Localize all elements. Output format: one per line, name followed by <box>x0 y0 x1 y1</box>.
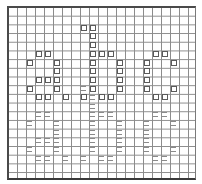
grid-cell[interactable] <box>142 58 151 67</box>
game-grid-board[interactable] <box>7 6 196 180</box>
square-marker-icon <box>153 94 159 100</box>
grid-cell[interactable] <box>88 102 97 111</box>
grid-cell[interactable] <box>43 76 52 85</box>
equals-marker-icon <box>45 138 50 143</box>
grid-cell[interactable] <box>43 50 52 59</box>
grid-cell[interactable] <box>25 119 34 128</box>
equals-marker-icon <box>54 130 59 135</box>
grid-cell[interactable] <box>79 84 88 93</box>
grid-cell[interactable] <box>34 76 43 85</box>
grid-cell[interactable] <box>169 119 178 128</box>
grid-cell[interactable] <box>88 128 97 137</box>
grid-cell[interactable] <box>142 119 151 128</box>
grid-cell[interactable] <box>43 110 52 119</box>
grid-cell[interactable] <box>142 145 151 154</box>
grid-cell[interactable] <box>25 84 34 93</box>
square-marker-icon <box>99 94 105 100</box>
grid-cell[interactable] <box>34 137 43 146</box>
grid-cell[interactable] <box>97 93 106 102</box>
grid-cell[interactable] <box>34 50 43 59</box>
grid-cell[interactable] <box>52 58 61 67</box>
grid-cell[interactable] <box>160 93 169 102</box>
grid-cell[interactable] <box>142 128 151 137</box>
equals-marker-icon <box>81 156 86 161</box>
grid-cell[interactable] <box>106 50 115 59</box>
grid-cell[interactable] <box>106 93 115 102</box>
grid-cell[interactable] <box>88 50 97 59</box>
equals-marker-icon <box>108 156 113 161</box>
grid-cell[interactable] <box>88 41 97 50</box>
grid-cell[interactable] <box>88 23 97 32</box>
grid-cell[interactable] <box>79 23 88 32</box>
grid-cell[interactable] <box>106 154 115 163</box>
grid-cell[interactable] <box>115 119 124 128</box>
grid-cell[interactable] <box>34 154 43 163</box>
grid-cell[interactable] <box>115 145 124 154</box>
grid-cell[interactable] <box>34 110 43 119</box>
square-marker-icon <box>144 68 150 74</box>
grid-cell[interactable] <box>88 93 97 102</box>
grid-cell[interactable] <box>88 137 97 146</box>
grid-cell[interactable] <box>43 93 52 102</box>
square-marker-icon <box>27 86 33 92</box>
equals-marker-icon <box>117 121 122 126</box>
grid-cell[interactable] <box>88 76 97 85</box>
grid-cell[interactable] <box>52 67 61 76</box>
square-marker-icon <box>117 86 123 92</box>
grid-cell[interactable] <box>115 128 124 137</box>
grid-cell[interactable] <box>169 145 178 154</box>
grid-cell[interactable] <box>52 119 61 128</box>
grid-cell[interactable] <box>115 137 124 146</box>
grid-cell[interactable] <box>160 110 169 119</box>
grid-cell[interactable] <box>25 145 34 154</box>
equals-marker-icon <box>117 130 122 135</box>
grid-cell[interactable] <box>97 154 106 163</box>
grid-cell[interactable] <box>142 67 151 76</box>
grid-cell[interactable] <box>97 110 106 119</box>
grid-cell[interactable] <box>169 84 178 93</box>
grid-cell[interactable] <box>25 58 34 67</box>
grid-cell[interactable] <box>43 137 52 146</box>
square-marker-icon <box>90 86 96 92</box>
grid-cell[interactable] <box>151 93 160 102</box>
grid-cell[interactable] <box>151 154 160 163</box>
grid-cell[interactable] <box>142 137 151 146</box>
grid-cell[interactable] <box>52 145 61 154</box>
equals-marker-icon <box>153 156 158 161</box>
grid-cell[interactable] <box>61 93 70 102</box>
grid-cell[interactable] <box>79 154 88 163</box>
equals-marker-icon <box>144 138 149 143</box>
square-marker-icon <box>153 51 159 57</box>
square-marker-icon <box>81 94 87 100</box>
equals-marker-icon <box>36 138 41 143</box>
grid-cell[interactable] <box>142 84 151 93</box>
equals-marker-icon <box>117 138 122 143</box>
grid-cell[interactable] <box>142 76 151 85</box>
grid-cell[interactable] <box>88 32 97 41</box>
grid-cell[interactable] <box>43 154 52 163</box>
grid-cell[interactable] <box>34 93 43 102</box>
grid-cell[interactable] <box>88 58 97 67</box>
grid-cell[interactable] <box>151 50 160 59</box>
grid-cell[interactable] <box>169 58 178 67</box>
grid-cell[interactable] <box>52 76 61 85</box>
grid-cell[interactable] <box>115 58 124 67</box>
grid-cell[interactable] <box>52 84 61 93</box>
grid-cell[interactable] <box>79 93 88 102</box>
grid-cell[interactable] <box>151 110 160 119</box>
grid-cell[interactable] <box>52 137 61 146</box>
grid-cell[interactable] <box>88 84 97 93</box>
grid-cell[interactable] <box>115 76 124 85</box>
grid-cell[interactable] <box>61 154 70 163</box>
grid-cell[interactable] <box>97 50 106 59</box>
grid-cell[interactable] <box>160 154 169 163</box>
grid-cell[interactable] <box>115 67 124 76</box>
grid-cell[interactable] <box>88 110 97 119</box>
grid-cell[interactable] <box>106 110 115 119</box>
grid-cell[interactable] <box>88 145 97 154</box>
grid-cell[interactable] <box>52 128 61 137</box>
grid-cell[interactable] <box>160 50 169 59</box>
grid-cell[interactable] <box>88 67 97 76</box>
grid-cell[interactable] <box>115 84 124 93</box>
grid-cell[interactable] <box>88 119 97 128</box>
